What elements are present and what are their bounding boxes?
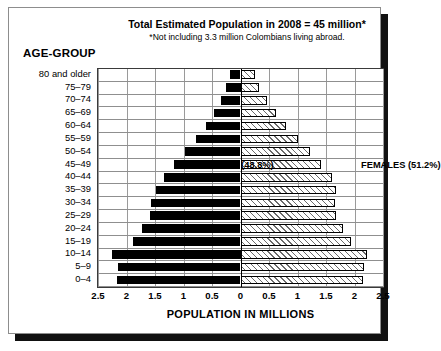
bar-female [241,211,336,220]
title-block: Total Estimated Population in 2008 = 45 … [113,17,381,44]
bar-male [112,250,240,259]
bar-female [241,276,364,285]
bar-row [98,120,383,133]
age-group-label: 0–4 [75,274,91,284]
bar-row [98,261,383,274]
age-group-label: 5–9 [75,261,91,271]
bar-female [241,199,335,208]
population-axis-title: POPULATION IN MILLIONS [97,308,384,320]
bar-female [241,237,351,246]
bar-row [98,249,383,262]
bar-male [117,276,240,285]
age-group-label: 70–74 [65,94,91,104]
population-tick-label: 1.5 [319,290,332,301]
age-group-label: 55–59 [65,133,91,143]
bar-female [241,109,277,118]
age-group-label: 25–29 [65,210,91,220]
series-label-males: MALES (48.8%) [206,160,274,170]
bar-male [164,173,241,182]
bar-row [98,95,383,108]
bar-female [241,135,298,144]
bar-male [230,70,240,79]
bar-male [226,83,240,92]
bar-row [98,146,383,159]
bar-row [98,210,383,223]
bar-row [98,236,383,249]
bar-male [133,237,240,246]
age-group-label: 80 and older [39,69,91,79]
gridline-10 [383,69,384,287]
age-group-label: 30–34 [65,197,91,207]
population-tick-label: 1 [181,290,186,301]
age-group-tick-labels: 80 and older75–7970–7465–6960–6455–5950–… [9,68,95,288]
bar-female [241,96,268,105]
bar-female [241,70,256,79]
series-label-females: FEMALES (51.2%) [361,160,441,170]
bar-male [118,263,241,272]
bar-male [221,96,241,105]
figure-drop-shadow-bottom [15,334,388,341]
population-tick-label: 2 [352,290,357,301]
age-group-label: 50–54 [65,146,91,156]
bar-male [206,122,240,131]
chart-title: Total Estimated Population in 2008 = 45 … [113,17,381,31]
bar-row [98,223,383,236]
bar-female [241,83,260,92]
age-group-label: 45–49 [65,159,91,169]
population-tick-label: 0 [238,290,243,301]
bar-row [98,69,383,82]
plot-area: MALES (48.8%) FEMALES (51.2%) [97,68,384,288]
bar-rows [98,69,383,287]
age-group-label: 40–44 [65,171,91,181]
row-separator [98,286,383,287]
age-group-label: 60–64 [65,120,91,130]
bar-row [98,133,383,146]
age-group-label: 10–14 [65,248,91,258]
population-tick-label: 1 [295,290,300,301]
bar-female [241,263,364,272]
age-group-axis-title: AGE-GROUP [23,47,96,59]
clipped-source-caption [10,344,390,351]
bar-male [185,147,240,156]
age-group-label: 15–19 [65,236,91,246]
bar-row [98,197,383,210]
population-tick-labels: 2.521.510.500.511.522.5 [97,290,384,304]
population-tick-label: 1.5 [148,290,161,301]
bar-row [98,274,383,287]
population-tick-label: 2.5 [376,290,389,301]
bar-male [214,109,241,118]
bar-row [98,107,383,120]
age-group-label: 75–79 [65,82,91,92]
population-tick-label: 2 [124,290,129,301]
bar-female [241,173,332,182]
population-tick-label: 0.5 [205,290,218,301]
bar-row [98,172,383,185]
bar-row [98,82,383,95]
bar-female [241,186,336,195]
population-tick-label: 0.5 [262,290,275,301]
population-tick-label: 2.5 [91,290,104,301]
bar-female [241,147,311,156]
chart-subtitle: *Not including 3.3 million Colombians li… [113,31,381,44]
age-group-label: 65–69 [65,107,91,117]
bar-female [241,122,287,131]
bar-female [241,224,344,233]
bar-male [142,224,240,233]
population-pyramid-figure: Total Estimated Population in 2008 = 45 … [8,7,381,334]
bar-row [98,184,383,197]
bar-female [241,250,368,259]
bar-male [150,211,240,220]
bar-male [156,186,240,195]
bar-male [196,135,240,144]
age-group-label: 20–24 [65,223,91,233]
age-group-label: 35–39 [65,184,91,194]
bar-male [151,199,240,208]
